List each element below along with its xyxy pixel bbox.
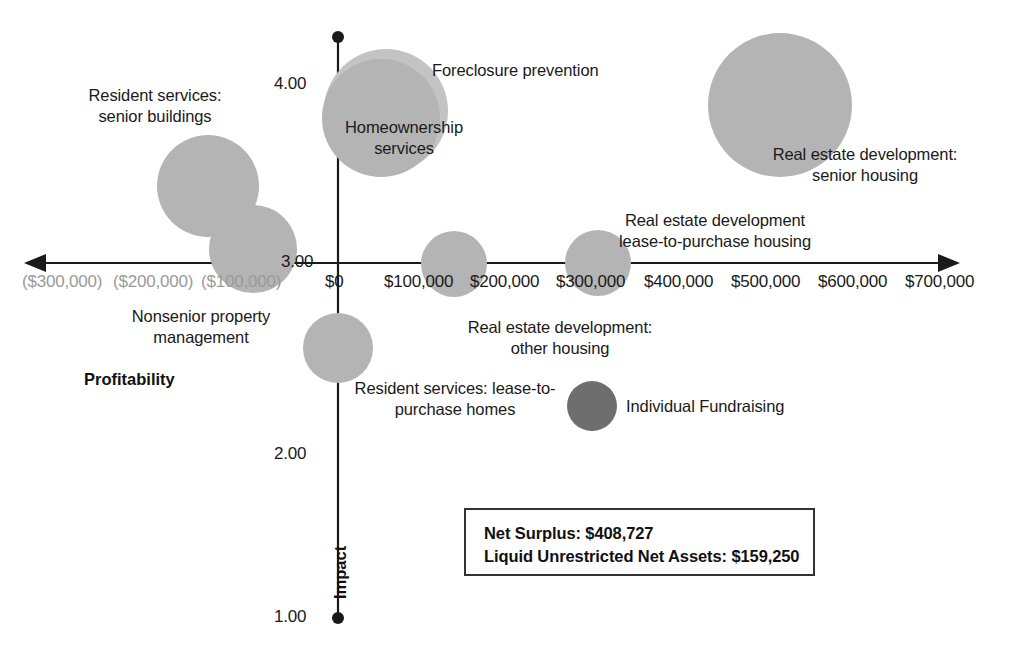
bubble-label-nonsenior-property-management: Nonsenior property management [86,306,316,348]
summary-liquid-assets: Liquid Unrestricted Net Assets: $159,250 [484,545,797,568]
x-axis-title: Profitability [84,370,175,389]
y-axis-title: Impact [331,546,350,599]
x-tick-label-600000: $600,000 [818,272,887,292]
bubble-label-resident-services-lease-to-purchase-homes: Resident services: lease-to- purchase ho… [340,378,570,420]
bubble-label-foreclosure-prevention: Foreclosure prevention [432,60,599,81]
bubble-label-resident-services-senior-buildings: Resident services: senior buildings [40,85,270,127]
y-tick-label-2: 2.00 [274,444,306,464]
bubble-label-real-estate-development-senior-housing: Real estate development: senior housing [745,144,985,186]
x-tick-label-neg-300000: ($300,000) [22,272,102,292]
bubble-label-individual-fundraising: Individual Fundraising [626,396,784,417]
bubble-label-real-estate-development-other-housing: Real estate development: other housing [440,317,680,359]
x-tick-label-100000: $100,000 [384,272,453,292]
x-tick-label-300000: $300,000 [556,272,625,292]
bubble-label-homeownership-services: Homeownership services [338,117,470,159]
x-tick-label-neg-100000: ($100,000) [201,272,281,292]
y-tick-label-4: 4.00 [274,74,306,94]
bubble-label-real-estate-development-lease-to-purchase-housing: Real estate development lease-to-purchas… [590,210,840,252]
x-tick-label-200000: $200,000 [470,272,539,292]
summary-box: Net Surplus: $408,727 Liquid Unrestricte… [464,508,815,576]
y-tick-label-3: 3.00 [281,252,313,272]
x-tick-label-700000: $700,000 [905,272,974,292]
x-tick-label-500000: $500,000 [731,272,800,292]
x-tick-label-neg-200000: ($200,000) [113,272,193,292]
x-axis [24,254,960,272]
y-tick-label-1: 1.00 [274,607,306,627]
x-tick-label-0: $0 [325,272,344,292]
bubble-individual-fundraising [567,381,617,431]
x-tick-label-400000: $400,000 [644,272,713,292]
bubble-chart: ($300,000) ($200,000) ($100,000) $0 $100… [0,0,1010,650]
summary-net-surplus: Net Surplus: $408,727 [484,522,797,545]
